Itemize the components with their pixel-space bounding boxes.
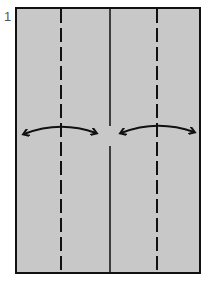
- paper-sheet: [16, 8, 200, 273]
- origami-diagram: [0, 0, 207, 281]
